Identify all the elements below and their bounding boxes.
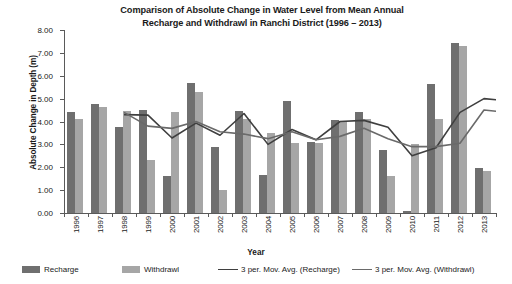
legend-swatch-icon [218, 269, 238, 270]
legend-label: 3 per. Mov. Avg. (Withdrawl) [375, 265, 474, 274]
x-axis-label-1996: 1996 [72, 216, 81, 233]
bar-recharge-1998 [115, 127, 123, 213]
x-axis-tick [496, 213, 497, 217]
bar-withdrawl-1996 [75, 119, 83, 213]
y-axis-tick-label: 6.00 [37, 71, 53, 80]
x-axis-label-2005: 2005 [288, 216, 297, 233]
y-axis-tick-label: 7.00 [37, 48, 53, 57]
bar-recharge-2005 [283, 101, 291, 213]
bar-recharge-2004 [259, 175, 267, 213]
bar-recharge-2010 [403, 211, 411, 213]
x-axis-label-2013: 2013 [480, 216, 489, 233]
bar-group [208, 30, 232, 213]
bar-recharge-2007 [331, 120, 339, 213]
bar-recharge-1997 [91, 104, 99, 213]
bar-withdrawl-2006 [315, 143, 323, 213]
y-axis-tick-label: 2.00 [37, 163, 53, 172]
x-axis-label-2011: 2011 [432, 216, 441, 232]
bar-group [304, 30, 328, 213]
x-axis-label-2007: 2007 [336, 216, 345, 233]
y-axis-tick-label: 8.00 [37, 26, 53, 35]
x-axis-label-2000: 2000 [168, 216, 177, 233]
y-axis-tick-label: 1.00 [37, 186, 53, 195]
chart-legend: RechargeWithdrawl3 per. Mov. Avg. (Recha… [22, 262, 492, 278]
plot-area: 0.001.002.003.004.005.006.007.008.00 [64, 30, 496, 213]
x-axis-label-2009: 2009 [384, 216, 393, 233]
bar-group [112, 30, 136, 213]
bar-group [376, 30, 400, 213]
x-axis-label-2004: 2004 [264, 216, 273, 233]
legend-item-line-withdrawl[interactable]: 3 per. Mov. Avg. (Withdrawl) [352, 262, 474, 276]
bar-recharge-1996 [67, 112, 75, 213]
x-axis-label-2012: 2012 [456, 216, 465, 233]
bar-withdrawl-2008 [363, 119, 371, 213]
bar-group [88, 30, 112, 213]
bar-withdrawl-2009 [387, 176, 395, 213]
chart-container: Comparison of Absolute Change in Water L… [0, 0, 512, 284]
x-axis-label-2001: 2001 [192, 216, 201, 233]
bar-group [64, 30, 88, 213]
x-axis-label-2006: 2006 [312, 216, 321, 233]
bar-group [184, 30, 208, 213]
bar-group [280, 30, 304, 213]
bars-layer [64, 30, 496, 213]
bar-withdrawl-2003 [243, 119, 251, 213]
bar-group [424, 30, 448, 213]
y-axis-tick-label: 0.00 [37, 209, 53, 218]
legend-swatch-icon [22, 266, 40, 273]
chart-title-line-2: Recharge and Withdrawl in Ranchi Distric… [62, 17, 462, 30]
bar-recharge-1999 [139, 110, 147, 213]
x-axis-label-2002: 2002 [216, 216, 225, 233]
bar-recharge-2012 [451, 43, 459, 213]
bar-group [352, 30, 376, 213]
x-axis-label-1998: 1998 [120, 216, 129, 233]
bar-withdrawl-2001 [195, 92, 203, 213]
bar-recharge-2003 [235, 111, 243, 213]
bar-group [232, 30, 256, 213]
bar-recharge-2009 [379, 150, 387, 213]
y-axis-title: Absolute Change in Depth (m) [29, 18, 38, 208]
bar-withdrawl-2000 [171, 112, 179, 213]
x-axis-label-1997: 1997 [96, 216, 105, 233]
y-axis-tick-label: 3.00 [37, 140, 53, 149]
bar-withdrawl-2005 [291, 143, 299, 213]
bar-withdrawl-2012 [459, 46, 467, 213]
bar-withdrawl-2007 [339, 122, 347, 214]
x-axis-label-2010: 2010 [408, 216, 417, 233]
bar-recharge-2002 [211, 147, 219, 213]
bar-group [256, 30, 280, 213]
bar-group [160, 30, 184, 213]
x-axis-label-1999: 1999 [144, 216, 153, 233]
bar-group [448, 30, 472, 213]
bar-withdrawl-2013 [483, 171, 491, 213]
bar-group [400, 30, 424, 213]
legend-label: Recharge [44, 265, 79, 274]
legend-label: 3 per. Mov. Avg. (Recharge) [241, 265, 340, 274]
y-axis-tick-label: 4.00 [37, 117, 53, 126]
legend-swatch-icon [352, 269, 372, 270]
chart-title: Comparison of Absolute Change in Water L… [62, 4, 462, 29]
bar-withdrawl-2010 [411, 144, 419, 213]
legend-swatch-icon [122, 266, 140, 273]
bar-recharge-2008 [355, 112, 363, 213]
chart-title-line-1: Comparison of Absolute Change in Water L… [62, 4, 462, 17]
bar-recharge-2013 [475, 168, 483, 213]
bar-withdrawl-2002 [219, 190, 227, 213]
bar-group [472, 30, 496, 213]
legend-item-swatch-withdrawl[interactable]: Withdrawl [122, 262, 179, 276]
bar-withdrawl-1998 [123, 111, 131, 213]
y-axis-tick-label: 5.00 [37, 94, 53, 103]
bar-recharge-2001 [187, 83, 195, 213]
legend-item-line-recharge[interactable]: 3 per. Mov. Avg. (Recharge) [218, 262, 340, 276]
bar-withdrawl-2004 [267, 133, 275, 213]
bar-group [328, 30, 352, 213]
bar-withdrawl-2011 [435, 119, 443, 213]
x-axis-title: Year [0, 248, 512, 257]
bar-withdrawl-1997 [99, 107, 107, 213]
bar-group [136, 30, 160, 213]
bar-withdrawl-1999 [147, 160, 155, 213]
legend-item-swatch-recharge[interactable]: Recharge [22, 262, 79, 276]
bar-recharge-2011 [427, 84, 435, 213]
bar-recharge-2000 [163, 176, 171, 213]
x-axis-label-2003: 2003 [240, 216, 249, 233]
